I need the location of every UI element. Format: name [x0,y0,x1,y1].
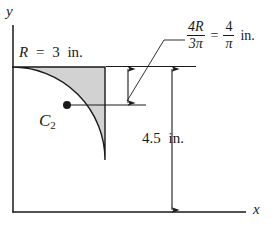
formula-fraction-left: 4R 3π [186,20,206,51]
formula-denominator-right: π [223,35,234,51]
centroid-figure: y x R = 3 in. C2 4.5 in. 4R 3π = 4 π in. [0,0,278,247]
quarter-circle-shape [12,67,105,160]
centroid-offset-formula: 4R 3π = 4 π in. [184,20,255,51]
radius-value: 3 [52,44,60,60]
leader-line-formula [127,40,185,101]
centroid-subscript: 2 [50,119,56,131]
formula-numerator-left: 4R [186,20,206,35]
height-value: 4.5 [142,130,161,146]
formula-numerator-right: 4 [223,20,234,35]
formula-denominator-left: 3π [187,35,205,51]
radius-label: R = 3 in. [19,45,83,60]
radius-variable: R [19,44,28,60]
radius-equals: = [36,44,44,60]
formula-equals: = [211,29,219,43]
formula-fraction-right: 4 π [223,20,234,51]
formula-unit: in. [240,29,254,43]
y-axis-label: y [6,4,13,19]
height-unit: in. [169,130,184,146]
centroid-dot [63,101,71,109]
centroid-label: C2 [39,112,56,131]
height-dimension-label: 4.5 in. [142,131,184,146]
centroid-letter: C [39,111,50,130]
radius-unit: in. [67,44,82,60]
x-axis-label: x [253,202,260,217]
